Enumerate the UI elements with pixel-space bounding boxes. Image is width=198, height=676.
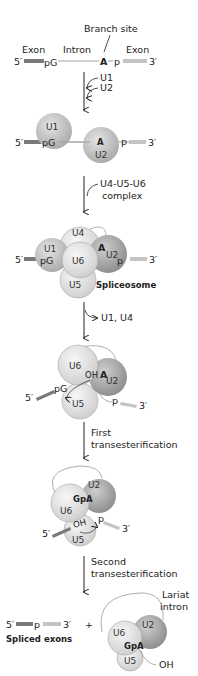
p-label: p [98,513,104,524]
five-prime-label: 5′ [15,137,23,148]
pg-label: pG [44,57,57,68]
branch-a-label: A [97,137,104,147]
oh-label: OH [85,370,98,380]
u4-u5-u6-label: U4-U5-U6 [100,178,146,189]
exon-5-prime-bar [36,390,55,401]
transesterification-label: transesterification [91,439,178,450]
u5-label: U5 [72,535,84,545]
branch-a-label: A [98,242,106,253]
intron-label: Intron [63,44,91,55]
release-arrow-icon [85,310,97,318]
u1-label: U1 [44,244,56,254]
five-prime-label: 5′ [25,392,33,403]
exon-right-label: Exon [126,44,149,55]
spliced-exons: 5′ p 3′ Spliced exons [6,619,72,644]
three-prime-label: 3′ [149,56,157,67]
u1-label: U1 [46,122,58,132]
three-prime-label: 3′ [63,619,71,630]
u2-label: U2 [95,150,107,160]
u5-label: U5 [72,399,84,409]
exon-5-prime-bar [16,622,33,626]
three-prime-label: 3′ [122,523,130,534]
three-prime-label: 3′ [139,400,147,411]
step-second-transesterification: Second transesterification [84,556,178,592]
p-label: p [112,395,118,406]
exon-5-prime-bar [24,59,44,63]
exon-3-prime-bar [120,402,137,408]
gpa-label: GpA [124,641,144,651]
pg-label: pG [54,383,67,394]
step-first-transesterification: First transesterification [84,422,178,458]
join-arrow-icon [87,78,98,88]
u2-label: U2 [142,620,154,630]
pg-label: pG [40,255,53,266]
branch-a-label: A [100,56,108,67]
complex-label: complex [102,190,143,201]
three-prime-label: 3′ [148,137,156,148]
stage-spliceosome: 5′ U4 U1 U6 A U2 pG p 3′ U5 Spliceosome [15,227,157,298]
plus-sign: + [85,619,93,630]
lariat-label: Lariat [162,589,189,600]
u6-label: U6 [60,506,73,516]
transesterification-label: transesterification [91,568,178,579]
five-prime-label: 5′ [15,254,23,265]
p-label: p [117,255,123,266]
step-release-u1-u4: U1, U4 [84,302,133,338]
u2-label: U2 [88,480,100,490]
stage-products: 5′ p 3′ Spliced exons + U6 U2 GpA U5 OH … [6,589,189,671]
step-add-u4-u5-u6: U4-U5-U6 complex [84,176,146,212]
three-prime-label: 3′ [149,254,157,265]
p-label: p [121,136,127,147]
exon-3-prime-bar [123,59,147,63]
five-prime-label: 5′ [6,619,14,630]
u1-u4-release-label: U1, U4 [101,312,133,323]
intron-label: intron [160,601,188,612]
u4-label: U4 [72,228,85,238]
first-label: First [91,427,111,438]
exon-left-label: Exon [22,44,45,55]
u6-label: U6 [72,256,85,266]
branch-site-pointer [104,35,110,52]
p-label: p [34,619,40,630]
oh-label: OH [159,659,174,670]
join-arrow-icon [87,88,98,98]
five-prime-label: 5′ [14,56,22,67]
pg-label: pG [42,137,55,148]
join-arrow-icon [87,184,98,196]
branch-site-label: Branch site [84,23,138,34]
p-label: p [114,56,120,67]
stage-u1-u2-bound: 5′ U1 pG A U2 p 3′ [15,113,156,163]
spliced-exons-label: Spliced exons [6,634,72,644]
spliceosome-label: Spliceosome [96,280,156,290]
exon-3-prime-bar [129,140,146,144]
splicing-diagram: Branch site Exon Intron Exon 5′ pG A p 3… [0,0,198,676]
lariat-intron: U6 U2 GpA U5 OH Lariat intron [101,589,189,671]
stage-active-spliceosome: U6 OH A U2 5′ pG U5 p 3′ [25,345,147,419]
exon-3-prime-bar [43,622,61,626]
second-label: Second [91,556,126,567]
u2-label: U2 [106,376,118,386]
stage-pre-mrna: Branch site Exon Intron Exon 5′ pG A p 3… [14,23,157,68]
u6-label: U6 [69,361,82,371]
u6-label: U6 [113,628,126,638]
u2-label: U2 [100,82,113,93]
stage-lariat-intermediate: U2 GpA U6 5′ OH p 3′ U5 [42,466,130,546]
step-add-u1-u2: U1 U2 [84,72,113,110]
five-prime-label: 5′ [42,528,50,539]
u5-label: U5 [69,280,81,290]
exon-3-prime-bar [103,521,120,530]
u5-label: U5 [124,656,136,666]
exon-3-prime-bar [130,257,147,261]
gpa-label: GpA [73,494,93,504]
